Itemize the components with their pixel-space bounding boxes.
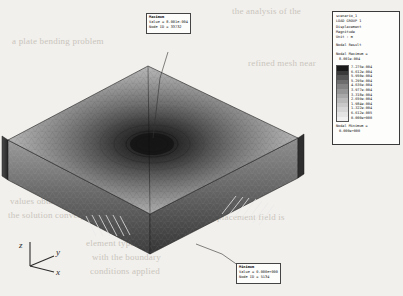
x-axis-label: x (55, 267, 60, 277)
y-axis-label: y (55, 247, 60, 257)
legend-swatches (336, 65, 349, 122)
y-axis-line (30, 256, 54, 266)
minimum-callout[interactable]: Minimum Value = 0.000e+000 Node ID = 513… (236, 263, 281, 284)
maximum-callout[interactable]: Maximum Value = 8.001e-004 Node ID = 337… (146, 13, 191, 34)
legend-result-type: Nodal Result (336, 43, 397, 48)
legend-value-10: 6.612e-005 (351, 111, 372, 116)
bleed-text-0: the analysis of the (232, 6, 301, 16)
legend-minimum-value: 0.000e+000 (336, 129, 397, 134)
triad-svg: z y x (8, 236, 88, 292)
legend-value-5: 3.977e-004 (351, 88, 372, 93)
max-displacement-zone (130, 133, 174, 155)
coordinate-triad: z y x (8, 236, 88, 292)
legend-maximum-value: 8.001e-004 (336, 57, 397, 62)
legend-swatch-11 (336, 117, 349, 123)
legend-color-scale: 7.275e-004 6.612e-004 5.950e-004 5.295e-… (336, 65, 397, 122)
legend-title-4: Unit : m (336, 35, 397, 40)
figure-canvas: the analysis of the a plate bending prob… (0, 0, 403, 296)
top-plate-contour (0, 58, 320, 228)
right-web-panel (298, 134, 304, 178)
maximum-callout-node: Node ID = 33732 (149, 25, 188, 30)
legend-value-0: 7.275e-004 (351, 65, 372, 70)
z-axis-label: z (18, 240, 23, 250)
legend-value-11: 0.000e+000 (351, 116, 372, 121)
legend-values: 7.275e-004 6.612e-004 5.950e-004 5.295e-… (351, 65, 372, 122)
minimum-callout-node: Node ID = 5134 (239, 275, 278, 280)
left-web-panel (2, 136, 8, 180)
x-axis-line (30, 266, 54, 272)
results-legend[interactable]: scenario_1 LOAD GROUP 1 Displacement Mag… (332, 11, 400, 145)
